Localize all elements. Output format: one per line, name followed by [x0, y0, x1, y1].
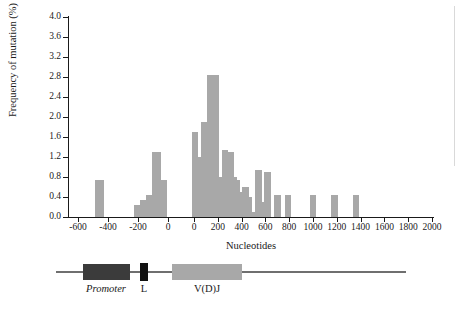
y-tick-label: 2.0	[49, 112, 68, 122]
x-tick-label: 0	[166, 223, 171, 233]
mutation-frequency-figure: Frequency of mutation (%) 4.03.63.22.82.…	[0, 0, 463, 309]
leader-exon-box	[140, 263, 148, 281]
promoter-box	[83, 264, 130, 280]
y-tick-label: 2.8	[49, 72, 68, 82]
x-axis-title: Nucleotides	[68, 240, 434, 251]
x-axis-line	[68, 217, 434, 218]
promoter-label: Promoter	[86, 284, 126, 295]
x-tick-label: -600	[69, 223, 86, 233]
x-tick-label: 400	[234, 223, 248, 233]
x-tick-label: 1600	[375, 223, 394, 233]
x-tick-label: -400	[99, 223, 116, 233]
page-edge-artifact	[454, 6, 455, 166]
y-axis-title: Frequency of mutation (%)	[8, 3, 19, 117]
histogram-bar	[264, 172, 271, 217]
histogram-bar	[331, 195, 338, 218]
y-tick-label: 4.0	[49, 12, 68, 22]
histogram-bar	[158, 180, 167, 218]
x-tick-label: 800	[282, 223, 296, 233]
y-tick-label: 1.6	[49, 132, 68, 142]
histogram-bar	[310, 195, 317, 218]
x-tick-label: 200	[211, 223, 225, 233]
vdj-label: V(D)J	[194, 284, 220, 295]
y-tick-label: 0.4	[49, 192, 68, 202]
y-tick-label: 0.8	[49, 172, 68, 182]
x-tick-label: -200	[129, 223, 146, 233]
y-tick-label: 0.0	[49, 212, 68, 222]
x-tick-label: 1800	[399, 223, 418, 233]
x-tick-label: 1000	[304, 223, 323, 233]
y-axis-line	[68, 16, 69, 218]
y-tick-label: 2.4	[49, 92, 68, 102]
histogram-bar	[274, 195, 281, 218]
vdj-box	[172, 264, 242, 280]
y-tick-label: 1.2	[49, 152, 68, 162]
y-tick-label: 3.6	[49, 32, 68, 42]
histogram-bar	[353, 195, 360, 218]
leader-label: L	[141, 284, 147, 295]
x-tick-label: 1200	[327, 223, 346, 233]
x-tick-label: 0	[192, 223, 197, 233]
x-tick-label: 2000	[423, 223, 442, 233]
histogram-bar	[95, 180, 104, 218]
histogram-bar	[285, 195, 292, 218]
x-tick-label: 600	[258, 223, 272, 233]
x-tick-label: 1400	[351, 223, 370, 233]
plot-area: 4.03.63.22.82.42.01.61.20.80.40.0 -600-4…	[68, 16, 434, 218]
gene-map: Promoter L V(D)J	[56, 262, 406, 307]
y-tick-label: 3.2	[49, 52, 68, 62]
